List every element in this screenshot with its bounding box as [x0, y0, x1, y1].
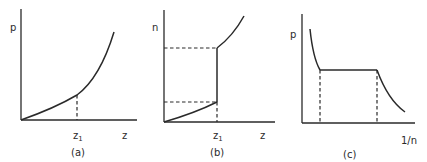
panel-c: p 1/n (c) [290, 14, 417, 160]
panel-a: p z z1 (a) [10, 9, 137, 158]
panel-b-z1-label: z1 [213, 130, 223, 143]
panel-b-y-label: n [152, 22, 158, 33]
panel-c-x-label: 1/n [401, 135, 417, 146]
panel-c-right-curve [377, 70, 405, 112]
panel-a-z1-label: z1 [73, 130, 83, 143]
panel-b-caption: (b) [210, 147, 224, 158]
panel-c-left-curve [310, 29, 320, 70]
panel-b-lower-curve [164, 102, 217, 122]
panel-a-y-label: p [10, 22, 16, 33]
panel-a-x-label: z [122, 130, 127, 141]
panel-b-x-label: z [260, 130, 265, 141]
panel-b: n z z1 (b) [152, 10, 275, 158]
panel-a-curve [21, 32, 114, 120]
panel-b-upper-curve [217, 16, 244, 48]
panel-a-caption: (a) [71, 147, 85, 158]
panel-c-caption: (c) [343, 149, 356, 160]
figure-canvas: p z z1 (a) n z z1 (b) p 1/n (c) [0, 0, 427, 162]
panel-c-y-label: p [290, 29, 296, 40]
